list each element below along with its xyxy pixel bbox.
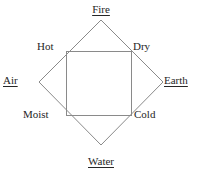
- elements-qualities-diagram: Fire Air Earth Water Hot Dry Moist Cold: [0, 0, 204, 176]
- element-label-earth: Earth: [164, 75, 188, 86]
- inner-square-shape: [67, 52, 132, 116]
- quality-label-hot: Hot: [37, 41, 54, 52]
- diagram-canvas: [0, 0, 204, 176]
- quality-label-cold: Cold: [134, 109, 155, 120]
- outer-diamond-shape: [39, 20, 163, 145]
- element-label-water: Water: [88, 156, 114, 167]
- quality-label-moist: Moist: [23, 109, 49, 120]
- element-label-fire: Fire: [92, 4, 110, 15]
- quality-label-dry: Dry: [133, 41, 150, 52]
- element-label-air: Air: [3, 75, 18, 86]
